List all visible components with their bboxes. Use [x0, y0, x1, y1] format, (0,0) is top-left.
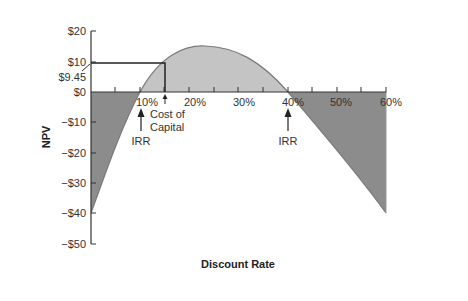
x-tick-40: 40% [282, 96, 304, 108]
y-tick-neg30: −$30 [61, 177, 86, 189]
irr1-label: IRR [132, 135, 151, 147]
irr2-arrow-icon [285, 108, 292, 117]
y-tick-10: $10 [68, 56, 86, 68]
y-tick-20: $20 [68, 25, 86, 37]
coc-arrow-icon [163, 94, 168, 99]
x-tick-20: 20% [184, 96, 206, 108]
irr2-label: IRR [279, 135, 298, 147]
y-axis-title: NPV [40, 125, 52, 148]
x-tick-30: 30% [233, 96, 255, 108]
y-tick-neg10: −$10 [61, 116, 86, 128]
npv-profile-chart: $20 $10 $0 −$10 −$20 −$30 −$40 −$50 $9.4… [0, 0, 468, 301]
npv-at-coc-label: $9.45 [58, 71, 86, 83]
irr1-arrow-icon [138, 108, 145, 117]
y-tick-neg50: −$50 [61, 238, 86, 250]
x-tick-10: 10% [136, 96, 158, 108]
x-axis-title: Discount Rate [201, 258, 275, 270]
negative-area-left [91, 92, 140, 213]
x-tick-60: 60% [380, 96, 402, 108]
positive-area [140, 46, 288, 92]
coc-label-line1: Cost of [150, 108, 186, 120]
y-tick-neg20: −$20 [61, 147, 86, 159]
x-tick-50: 50% [330, 96, 352, 108]
coc-label-line2: Capital [150, 121, 184, 133]
y-tick-neg40: −$40 [61, 207, 86, 219]
y-tick-0: $0 [74, 86, 86, 98]
